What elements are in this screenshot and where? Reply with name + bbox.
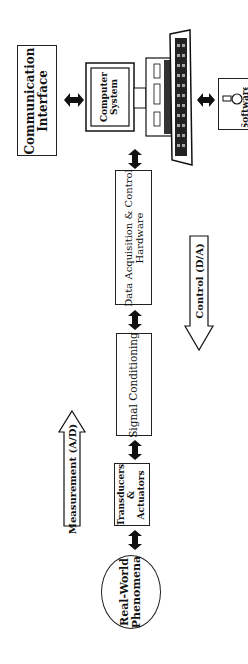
arrow-computer-software [197,92,215,108]
control-da-arrow: Control (D/A) [184,234,214,352]
real-world-ellipse: Real-World Phenomena [101,555,161,629]
daq-hardware-line2: Hardware [134,169,145,306]
arrow-signal-transducers [127,440,143,460]
software-label: Software [241,87,248,127]
measurement-label-wrap: Measurement (A/D) [64,432,80,526]
transducers-line3: Actuators [137,463,147,525]
daq-hardware-line1: Data Acquisition & Control [123,169,134,306]
real-world-line2: Phenomena [131,556,143,628]
arrow-computer-daq [127,149,143,169]
computer-system-line2: System [110,72,120,122]
measurement-label: Measurement (A/D) [67,424,78,534]
daq-hardware-label: Data Acquisition & Control Hardware [123,169,145,306]
computer-screen: Computer System [93,70,127,124]
transducers-label: Transducers & Actuators [117,463,147,525]
communication-interface-label: Communication Interface [24,47,50,154]
control-label: Control (D/A) [194,243,205,318]
arrow-comm-computer [64,92,84,108]
computer-system-illustration: Computer System [84,30,194,165]
signal-conditioning-box: Signal Conditioning [116,333,152,436]
daq-hardware-box: Data Acquisition & Control Hardware [115,170,152,305]
software-disk: Software [218,78,248,130]
computer-system-label: Computer System [100,72,120,122]
arrow-daq-signal [127,310,143,330]
communication-interface-box: Communication Interface [17,45,57,156]
transducers-box: Transducers & Actuators [114,463,150,526]
arrow-transducers-realworld [127,530,143,550]
software-label-wrap: Software [241,87,248,127]
communication-interface-line2: Interface [37,47,50,154]
control-label-wrap: Control (D/A) [190,236,208,326]
signal-conditioning-label: Signal Conditioning [128,332,140,438]
measurement-ad-arrow: Measurement (A/D) [58,410,86,528]
real-world-label: Real-World Phenomena [119,556,143,628]
